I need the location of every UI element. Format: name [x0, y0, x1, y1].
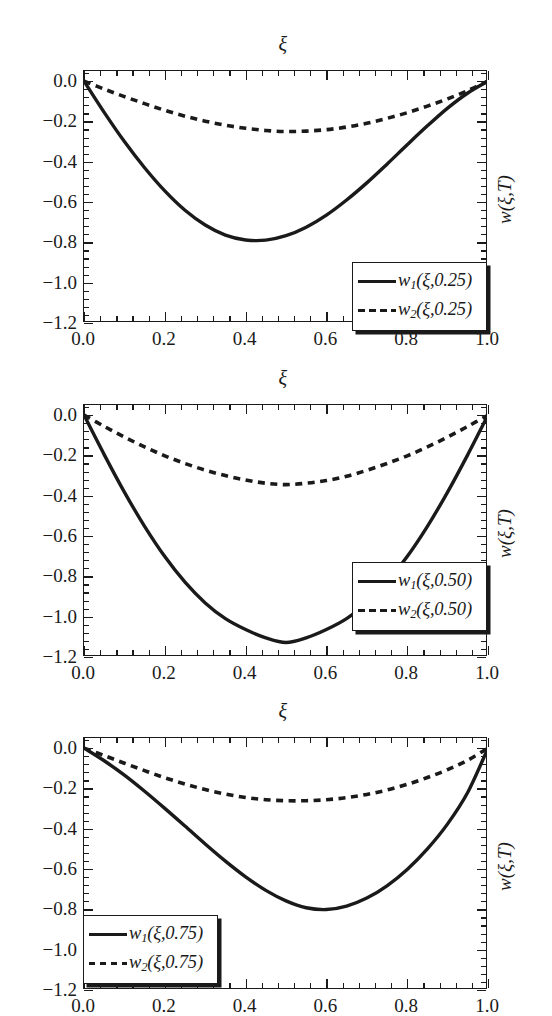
y-axis-label-text: w(ξ,T)	[494, 510, 515, 559]
y-tick-minor-left	[84, 552, 89, 553]
y-tick-major-right	[477, 657, 486, 658]
y-tick-minor-right	[481, 544, 486, 545]
x-tick-major-bottom	[246, 979, 247, 988]
x-tick-minor-bottom	[456, 650, 457, 655]
legend-label-w2: w2(ξ,0.50)	[398, 600, 472, 621]
y-tick-label: 0.0	[7, 71, 77, 90]
x-tick-label: 0.6	[295, 996, 355, 1015]
y-tick-minor-left	[84, 423, 89, 424]
x-tick-major-bottom	[326, 312, 327, 321]
y-tick-minor-left	[84, 194, 89, 195]
chart-panel-2: ξ w(ξ,T) 0.0−0.2−0.4−0.6−0.8−1.0−1.2 0.0…	[0, 334, 552, 667]
y-tick-minor-right	[481, 796, 486, 797]
y-tick-major-right	[477, 202, 486, 203]
y-tick-minor-right	[481, 942, 486, 943]
y-tick-minor-right	[481, 178, 486, 179]
x-tick-minor-top	[294, 405, 295, 410]
y-tick-minor-right	[481, 813, 486, 814]
x-tick-label: 0.8	[376, 996, 436, 1015]
x-tick-minor-bottom	[423, 650, 424, 655]
x-tick-major-bottom	[407, 646, 408, 655]
x-tick-major-top	[246, 405, 247, 414]
y-tick-minor-left	[84, 756, 89, 757]
y-tick-minor-left	[84, 275, 89, 276]
y-tick-major-left	[84, 657, 93, 658]
x-tick-minor-top	[359, 738, 360, 743]
x-tick-minor-top	[181, 405, 182, 410]
x-tick-minor-top	[181, 738, 182, 743]
y-tick-minor-left	[84, 805, 89, 806]
y-tick-minor-left	[84, 568, 89, 569]
y-tick-major-right	[477, 162, 486, 163]
y-tick-minor-left	[84, 544, 89, 545]
y-tick-major-left	[84, 576, 93, 577]
x-tick-minor-bottom	[100, 316, 101, 321]
x-tick-minor-top	[440, 738, 441, 743]
y-tick-minor-right	[481, 845, 486, 846]
x-tick-major-top	[407, 738, 408, 747]
x-tick-minor-top	[100, 405, 101, 410]
x-tick-minor-top	[213, 71, 214, 76]
x-tick-major-top	[407, 71, 408, 80]
legend-label-w1: w1(ξ,0.25)	[398, 271, 472, 292]
y-tick-minor-right	[481, 504, 486, 505]
x-tick-minor-top	[440, 71, 441, 76]
y-tick-minor-right	[481, 821, 486, 822]
x-tick-minor-top	[375, 71, 376, 76]
x-tick-minor-top	[423, 405, 424, 410]
y-tick-minor-right	[481, 472, 486, 473]
y-tick-minor-left	[84, 291, 89, 292]
legend-label-w2: w2(ξ,0.75)	[129, 953, 203, 974]
y-tick-minor-right	[481, 105, 486, 106]
x-tick-major-top	[488, 738, 489, 747]
y-tick-label: −1.0	[7, 607, 77, 626]
x-tick-minor-top	[132, 405, 133, 410]
legend-entry: w1(ξ,0.25)	[358, 267, 479, 296]
y-tick-minor-left	[84, 267, 89, 268]
y-tick-label: −0.8	[7, 232, 77, 251]
y-tick-minor-right	[481, 407, 486, 408]
y-tick-major-right	[477, 788, 486, 789]
y-tick-minor-right	[481, 917, 486, 918]
x-tick-minor-bottom	[456, 983, 457, 988]
y-tick-minor-right	[481, 89, 486, 90]
y-tick-minor-left	[84, 472, 89, 473]
y-tick-minor-right	[481, 772, 486, 773]
y-tick-minor-right	[481, 837, 486, 838]
x-tick-minor-bottom	[391, 650, 392, 655]
x-tick-minor-top	[310, 71, 311, 76]
y-tick-minor-left	[84, 226, 89, 227]
x-tick-minor-bottom	[440, 983, 441, 988]
y-tick-major-left	[84, 242, 93, 243]
y-tick-minor-left	[84, 560, 89, 561]
x-tick-minor-top	[213, 738, 214, 743]
y-tick-minor-left	[84, 73, 89, 74]
y-tick-minor-right	[481, 146, 486, 147]
y-tick-major-right	[477, 121, 486, 122]
y-tick-label: 0.0	[7, 405, 77, 424]
x-axis-label-top: ξ	[0, 34, 552, 54]
y-tick-minor-left	[84, 258, 89, 259]
y-tick-minor-left	[84, 649, 89, 650]
y-tick-minor-right	[481, 234, 486, 235]
x-tick-minor-bottom	[310, 316, 311, 321]
x-tick-minor-top	[149, 738, 150, 743]
y-tick-minor-right	[481, 740, 486, 741]
x-tick-minor-top	[391, 71, 392, 76]
x-tick-minor-top	[472, 71, 473, 76]
y-tick-major-right	[477, 909, 486, 910]
y-tick-major-right	[477, 496, 486, 497]
x-tick-minor-top	[294, 71, 295, 76]
y-tick-minor-right	[481, 154, 486, 155]
y-tick-minor-right	[481, 512, 486, 513]
y-tick-major-left	[84, 496, 93, 497]
x-tick-major-bottom	[407, 979, 408, 988]
y-tick-major-right	[477, 869, 486, 870]
x-tick-major-bottom	[246, 646, 247, 655]
x-tick-minor-bottom	[229, 650, 230, 655]
x-tick-label: 1.0	[457, 996, 517, 1015]
y-tick-minor-right	[481, 925, 486, 926]
legend-label-w1: w1(ξ,0.50)	[398, 571, 472, 592]
y-tick-minor-left	[84, 592, 89, 593]
x-tick-minor-top	[343, 71, 344, 76]
